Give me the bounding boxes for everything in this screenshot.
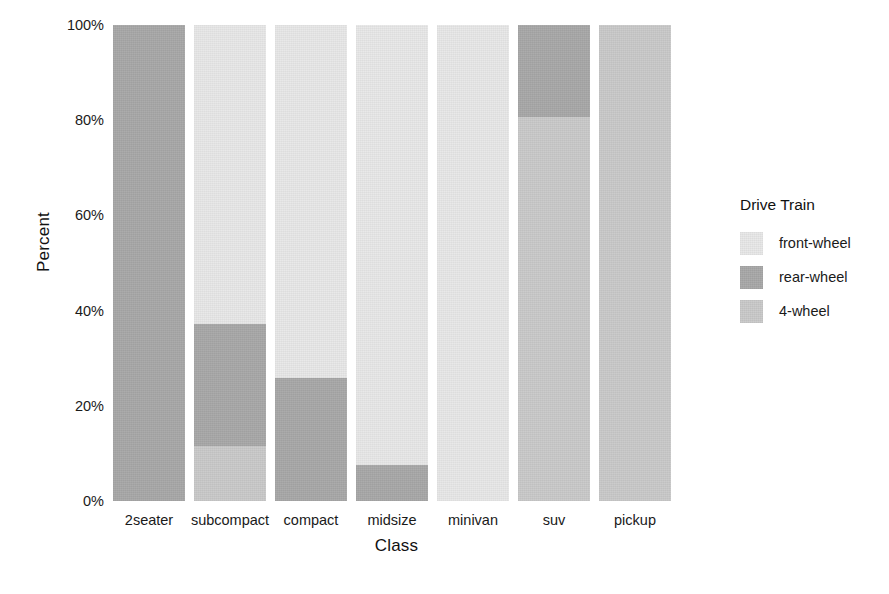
y-axis-tick-label: 20% [38,398,104,414]
bar-segment-4-wheel[interactable] [518,117,590,501]
y-axis-tick-labels: 0%20%40%60%80%100% [30,0,104,594]
legend-swatch-rear-wheel [740,266,763,289]
legend-item-4-wheel[interactable]: 4-wheel [740,296,885,326]
bar-segment-rear-wheel[interactable] [194,324,266,446]
x-axis-tick-label-subcompact: subcompact [191,512,269,528]
bar-2seater[interactable] [113,25,185,501]
bar-segment-rear-wheel[interactable] [518,25,590,117]
legend: Drive Train front-wheelrear-wheel4-wheel [740,196,885,330]
y-axis-tick-label: 80% [38,112,104,128]
x-axis-tick-label-minivan: minivan [448,512,498,528]
bar-segment-front-wheel[interactable] [275,25,347,378]
bar-segment-front-wheel[interactable] [437,25,509,501]
x-axis-tick-label-2seater: 2seater [125,512,173,528]
legend-swatch-front-wheel [740,232,763,255]
legend-item-front-wheel[interactable]: front-wheel [740,228,885,258]
y-axis-tick-label: 100% [38,17,104,33]
bar-segment-4-wheel[interactable] [599,25,671,501]
x-axis-tick-label-pickup: pickup [614,512,656,528]
bar-suv[interactable] [518,25,590,501]
bar-pickup[interactable] [599,25,671,501]
bar-subcompact[interactable] [194,25,266,501]
legend-swatch-4-wheel [740,300,763,323]
legend-label: 4-wheel [779,303,830,319]
bar-segment-4-wheel[interactable] [194,446,266,501]
bar-midsize[interactable] [356,25,428,501]
x-axis-tick-label-midsize: midsize [367,512,416,528]
bar-segment-rear-wheel[interactable] [275,378,347,501]
legend-item-rear-wheel[interactable]: rear-wheel [740,262,885,292]
bar-segment-front-wheel[interactable] [356,25,428,465]
bar-segment-rear-wheel[interactable] [356,465,428,501]
bar-compact[interactable] [275,25,347,501]
legend-items: front-wheelrear-wheel4-wheel [740,228,885,326]
y-axis-tick-label: 0% [38,493,104,509]
bar-segment-front-wheel[interactable] [194,25,266,324]
bar-minivan[interactable] [437,25,509,501]
legend-label: front-wheel [779,235,851,251]
y-axis-tick-label: 40% [38,303,104,319]
y-axis-tick-label: 60% [38,207,104,223]
legend-label: rear-wheel [779,269,848,285]
stacked-bar-chart: Percent 0%20%40%60%80%100% 2seatersubcom… [0,0,889,594]
legend-title: Drive Train [740,196,885,214]
x-axis-tick-label-suv: suv [543,512,566,528]
bar-segment-rear-wheel[interactable] [113,25,185,501]
x-axis-title: Class [113,536,680,556]
x-axis-tick-label-compact: compact [284,512,339,528]
plot-area [113,25,680,501]
